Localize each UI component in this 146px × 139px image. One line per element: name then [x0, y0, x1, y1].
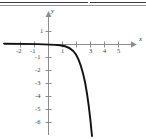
y-tick-label-1: 1 — [40, 27, 43, 34]
x-tick-label-5: 5 — [117, 47, 120, 54]
x-tick-label-4: 4 — [103, 47, 106, 54]
y-tick-label-neg5: -5 — [35, 105, 40, 112]
y-tick-label-neg2: -2 — [35, 66, 40, 73]
x-axis-label: x — [139, 35, 142, 43]
y-tick-label-neg6: -6 — [35, 118, 40, 125]
x-tick-label-neg2: -2 — [16, 47, 21, 54]
y-axis-label: y — [51, 7, 54, 15]
graph-canvas — [0, 0, 146, 139]
x-tick-label-3: 3 — [89, 47, 92, 54]
y-tick-label-neg3: -3 — [35, 79, 40, 86]
x-axis-arrowhead — [131, 42, 137, 48]
x-tick-label-1: 1 — [61, 47, 64, 54]
y-tick-label-neg1: -1 — [35, 53, 40, 60]
graph-figure: x y -2 -1 1 3 4 5 1 -1 -2 -3 -4 -5 -6 — [0, 0, 146, 139]
y-tick-label-neg4: -4 — [35, 92, 40, 99]
